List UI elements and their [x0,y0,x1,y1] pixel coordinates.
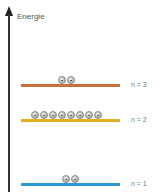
axis-label: Energie [17,12,45,21]
electron-icon [67,76,75,84]
electron-icon [85,111,93,119]
electron-icon [71,175,79,183]
axis-line [8,14,10,192]
electron-icon [58,111,66,119]
energy-level-line [21,119,120,122]
electrons-n1 [62,175,79,183]
electron-icon [76,111,84,119]
electron-icon [58,76,66,84]
electron-icon [40,111,48,119]
electrons-n3 [58,76,75,84]
level-label: n = 3 [131,81,147,88]
electron-icon [62,175,70,183]
electron-icon [31,111,39,119]
level-label: n = 1 [131,180,147,187]
electron-icon [94,111,102,119]
electrons-n2 [31,111,102,119]
energy-level-line [21,183,120,186]
energy-level-line [21,84,120,87]
electron-icon [67,111,75,119]
level-label: n = 2 [131,116,147,123]
electron-icon [49,111,57,119]
